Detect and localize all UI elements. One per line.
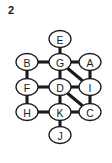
graph-node-a[interactable]: A [79,54,101,71]
figure-container: 2 EBGAFDIHKCJ [0,0,112,163]
node-label-j: J [57,130,62,142]
node-label-i: I [89,82,92,94]
node-label-g: G [56,57,64,69]
graph-node-i[interactable]: I [79,79,101,96]
graph-edge-g-i [67,68,82,81]
node-label-a: A [86,57,93,69]
node-label-k: K [56,107,63,119]
node-label-b: B [23,57,30,69]
graph-node-h[interactable]: H [16,104,38,121]
graph-node-g[interactable]: G [49,54,71,71]
graph-node-c[interactable]: C [79,104,101,121]
node-label-h: H [23,107,31,119]
node-label-c: C [86,107,94,119]
graph-node-k[interactable]: K [49,104,71,121]
node-label-f: F [24,82,30,94]
graph-nodes-group: EBGAFDIHKCJ [16,31,101,144]
node-label-e: E [56,34,63,46]
graph-edge-d-c [67,93,82,106]
node-label-d: D [56,82,64,94]
graph-node-j[interactable]: J [49,127,71,144]
graph-node-b[interactable]: B [16,54,38,71]
graph-node-d[interactable]: D [49,79,71,96]
graph-node-f[interactable]: F [16,79,38,96]
node-link-graph: EBGAFDIHKCJ [0,0,112,163]
graph-node-e[interactable]: E [49,31,71,48]
